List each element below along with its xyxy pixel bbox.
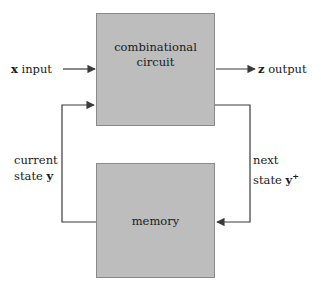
z-output-text: output <box>265 62 307 76</box>
combinational-circuit-label-line1: combinational <box>96 40 215 55</box>
x-input-symbol: x <box>11 62 18 76</box>
combinational-circuit-label: combinational circuit <box>96 40 215 70</box>
next-state-text: state <box>253 173 285 187</box>
memory-label-line1: memory <box>96 214 215 229</box>
z-output-label: z output <box>258 61 307 77</box>
memory-label: memory <box>96 214 215 229</box>
next-state-label: next state y+ <box>253 152 299 188</box>
current-state-text: state <box>14 169 46 183</box>
diagram-canvas: combinational circuit memory x input z o… <box>0 0 321 294</box>
next-state-label-line1: next <box>253 152 299 168</box>
x-input-label: x input <box>11 61 52 77</box>
next-state-label-line2: state y+ <box>253 168 299 188</box>
current-state-symbol: y <box>46 169 53 183</box>
combinational-circuit-label-line2: circuit <box>96 55 215 70</box>
wire-current-state-feedback <box>62 105 96 222</box>
current-state-label-line1: current <box>14 152 58 168</box>
current-state-label: current state y <box>14 152 58 184</box>
x-input-text: input <box>18 62 52 76</box>
current-state-label-line2: state y <box>14 168 58 184</box>
wire-next-state-feedback <box>215 105 250 222</box>
next-state-superscript: + <box>292 171 299 181</box>
